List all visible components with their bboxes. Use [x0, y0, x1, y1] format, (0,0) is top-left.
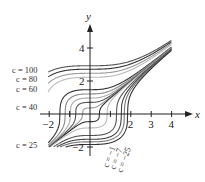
- x-tick-label: 3: [148, 118, 154, 130]
- y-tick-label: −2: [72, 141, 84, 153]
- x-tick-label: 2: [128, 118, 134, 130]
- x-axis-label: x: [194, 108, 200, 120]
- curve-label: c = 60: [16, 84, 37, 94]
- y-axis-arrow-icon: [87, 24, 93, 32]
- curve-series: [48, 42, 171, 77]
- curve-label: c = 40: [16, 102, 37, 112]
- x-tick-label: 4: [169, 118, 175, 130]
- x-tick-label: −2: [42, 118, 54, 130]
- y-axis-label: y: [85, 10, 91, 22]
- curve-family: [48, 40, 171, 147]
- curve-labels: c = 100c = 80c = 60c = 40c = 25c = −1c =…: [12, 65, 133, 174]
- y-tick-label: 4: [79, 42, 85, 54]
- curve-label: c = 80: [16, 74, 37, 84]
- chart-plot-area: x y −2234 42−2 c = 100c = 80c = 60c = 40…: [0, 0, 205, 182]
- y-tick-label: 2: [79, 75, 85, 87]
- x-axis-arrow-icon: [185, 111, 193, 117]
- curve-series: [57, 49, 172, 146]
- curve-label: c = 25: [16, 140, 37, 150]
